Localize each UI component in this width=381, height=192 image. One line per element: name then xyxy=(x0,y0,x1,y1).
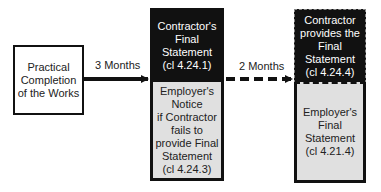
label-2-months: 2 Months xyxy=(239,60,284,72)
practical-completion-text: Practical Completion of the Works xyxy=(18,61,80,100)
employer-final-statement-box: Employer's Final Statement (cl 4.21.4) xyxy=(294,82,366,183)
contractor-final-statement-text: Contractor's Final Statement (cl 4.24.1) xyxy=(158,20,217,72)
practical-completion-box: Practical Completion of the Works xyxy=(13,45,84,115)
label-3-months: 3 Months xyxy=(95,59,140,71)
contractor-provides-text: Contractor provides the Final Statement … xyxy=(300,14,360,79)
employer-notice-box: Employer's Notice if Contractor fails to… xyxy=(150,82,224,181)
contractor-provides-box: Contractor provides the Final Statement … xyxy=(294,9,366,83)
contractor-final-statement-box: Contractor's Final Statement (cl 4.24.1) xyxy=(150,8,224,83)
employer-final-statement-text: Employer's Final Statement (cl 4.21.4) xyxy=(303,106,357,158)
employer-notice-text: Employer's Notice if Contractor fails to… xyxy=(156,85,219,176)
